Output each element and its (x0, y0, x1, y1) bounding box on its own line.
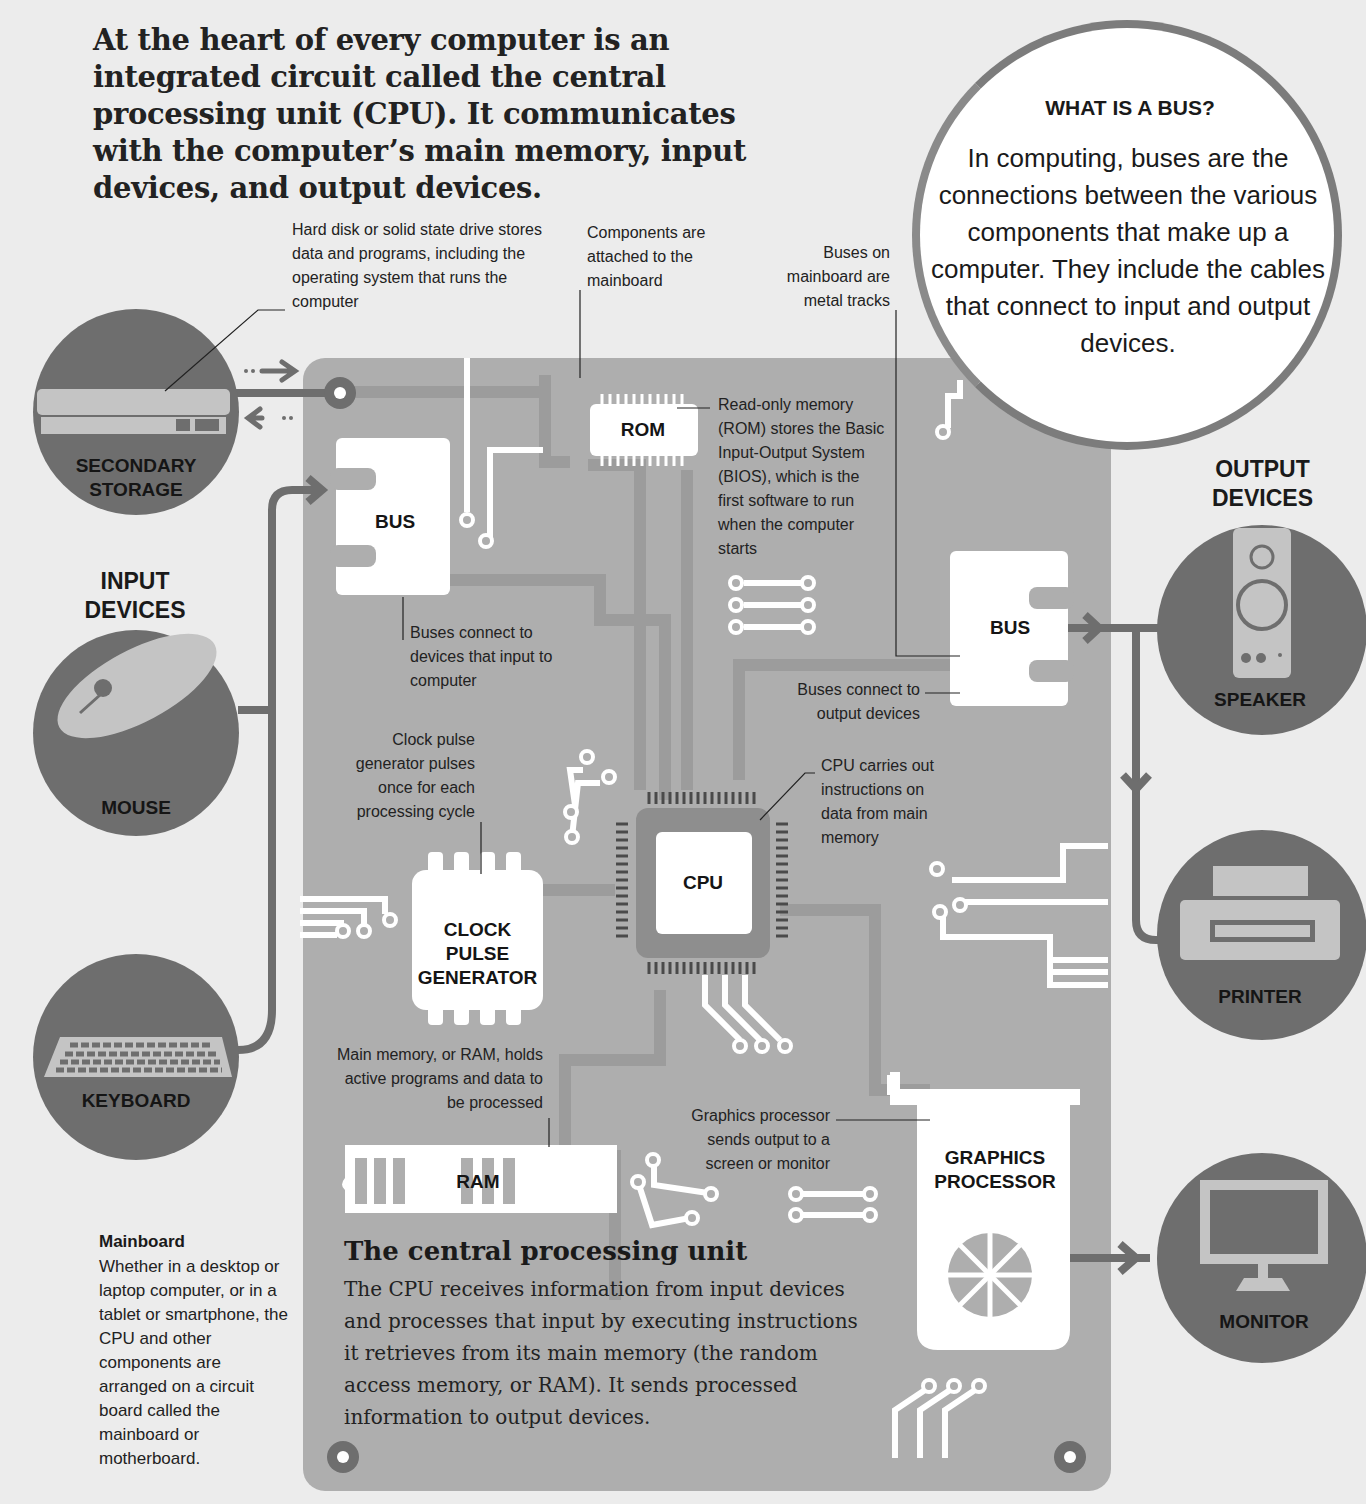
bus-input-annotation: Buses connect to devices that input to c… (410, 621, 560, 693)
storage-annotation: Hard disk or solid state drive stores da… (292, 218, 542, 314)
cpu-label: CPU (660, 871, 746, 895)
secondary-storage-label: SECONDARY STORAGE (56, 454, 216, 502)
mainboard-note-title: Mainboard (99, 1232, 185, 1252)
printer-label: PRINTER (1190, 985, 1330, 1009)
output-devices-label: OUTPUT DEVICES (1185, 455, 1340, 513)
bubble-body: In computing, buses are the connections … (930, 140, 1326, 362)
mainboard-attach-annotation: Components are attached to the mainboard (587, 221, 732, 293)
monitor-label: MONITOR (1190, 1310, 1338, 1334)
metal-tracks-annotation: Buses on mainboard are metal tracks (760, 241, 890, 313)
keyboard-icon (44, 1037, 232, 1077)
cpu-section-title: The central processing unit (344, 1236, 747, 1266)
gpu-annotation: Graphics processor sends output to a scr… (670, 1104, 830, 1176)
bus-output-annotation: Buses connect to output devices (770, 678, 920, 726)
input-cable (238, 478, 322, 710)
bus-input-label: BUS (350, 510, 440, 534)
gpu-label: GRAPHICS PROCESSOR (925, 1146, 1065, 1194)
clock-annotation: Clock pulse generator pulses once for ea… (330, 728, 475, 824)
cpu-section-body: The CPU receives information from input … (344, 1273, 864, 1433)
input-devices-label: INPUT DEVICES (60, 567, 210, 625)
gpu-card-shape (890, 1072, 1080, 1350)
hard-drive-icon (37, 389, 230, 434)
cpu-annotation: CPU carries out instructions on data fro… (821, 754, 956, 850)
ram-label: RAM (438, 1170, 518, 1194)
mainboard-note-body: Whether in a desktop or laptop computer,… (99, 1255, 289, 1471)
speaker-label: SPEAKER (1190, 688, 1330, 712)
bubble-title: WHAT IS A BUS? (945, 96, 1315, 120)
ram-annotation: Main memory, or RAM, holds active progra… (330, 1043, 543, 1115)
mouse-label: MOUSE (66, 796, 206, 820)
speaker-icon (1233, 528, 1291, 678)
keyboard-label: KEYBOARD (56, 1089, 216, 1113)
rom-annotation: Read-only memory (ROM) stores the Basic … (718, 393, 888, 561)
clock-label: CLOCK PULSE GENERATOR (412, 918, 543, 990)
rom-label: ROM (598, 418, 688, 442)
bus-output-label: BUS (965, 616, 1055, 640)
